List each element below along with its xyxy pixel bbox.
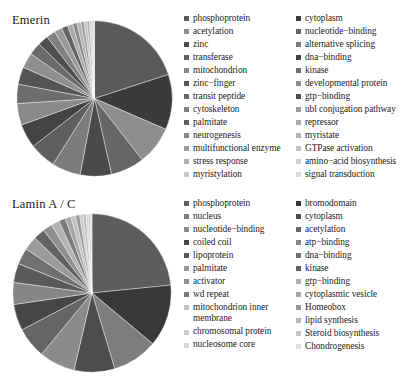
emerin-legend-item: acetylation (184, 26, 296, 38)
legend-swatch-icon (184, 172, 189, 177)
legend-swatch-icon (296, 331, 301, 336)
legend-label: amino−acid biosynthesis (305, 156, 396, 168)
legend-label: gtp−binding (305, 91, 350, 103)
legend-label: kinase (305, 263, 328, 275)
legend-label: myristylation (193, 169, 242, 181)
legend-label: nucleosome core (193, 339, 255, 351)
lamin-panel: Lamin A / C phosphoproteinbromodomainnuc… (0, 187, 414, 377)
legend-label: nucleus (193, 211, 221, 223)
lamin-legend-item: atp−binding (296, 237, 414, 249)
lamin-legend-item: bromodomain (296, 198, 414, 210)
legend-swatch-icon (296, 146, 301, 151)
legend-swatch-icon (296, 318, 301, 323)
legend-swatch-icon (296, 240, 301, 245)
legend-label: alternative splicing (305, 39, 375, 51)
legend-label: bromodomain (305, 198, 357, 210)
legend-label: palmitate (193, 263, 227, 275)
legend-swatch-icon (296, 214, 301, 219)
legend-swatch-icon (296, 227, 301, 232)
legend-swatch-icon (296, 107, 301, 112)
lamin-slice: phosphoprotein (92, 214, 171, 293)
lamin-legend-item: coiled coil (184, 237, 296, 249)
lamin-legend-item: lipid synthesis (296, 315, 414, 327)
lamin-legend-item: phosphoprotein (184, 198, 296, 210)
emerin-legend-column-left: phosphoproteinacetylationzinctransferase… (184, 13, 296, 182)
legend-label: dna−binding (305, 52, 352, 64)
emerin-legend-item: signal transduction (296, 169, 414, 181)
legend-swatch-icon (184, 42, 189, 47)
legend-label: multifunctional enzyme (193, 143, 280, 155)
legend-swatch-icon (296, 120, 301, 125)
lamin-title: Lamin A / C (12, 197, 76, 212)
legend-swatch-icon (184, 107, 189, 112)
legend-swatch-icon (296, 16, 301, 21)
lamin-legend-item: Chondrogenesis (296, 341, 414, 353)
emerin-legend-item: gtp−binding (296, 91, 414, 103)
legend-label: developmental protein (305, 78, 387, 90)
emerin-legend-item: stress response (184, 156, 296, 168)
emerin-legend-item: myristylation (184, 169, 296, 181)
lamin-legend-item: kinase (296, 263, 414, 275)
legend-swatch-icon (184, 305, 189, 310)
legend-label: zinc (193, 39, 208, 51)
legend-swatch-icon (296, 172, 301, 177)
legend-label: Steroid biosynthesis (305, 328, 379, 340)
emerin-legend-item: palmitate (184, 117, 296, 129)
legend-label: transferase (193, 52, 233, 64)
emerin-pie-svg: phosphoproteincytoplasmacetylationnucleo… (16, 20, 173, 177)
legend-swatch-icon (184, 16, 189, 21)
legend-swatch-icon (184, 133, 189, 138)
legend-label: cytoskeleton (193, 104, 239, 116)
legend-swatch-icon (296, 253, 301, 258)
legend-swatch-icon (184, 159, 189, 164)
legend-swatch-icon (184, 227, 189, 232)
legend-swatch-icon (296, 68, 301, 73)
lamin-legend-column-right: bromodomaincytoplasmacetylationatp−bindi… (296, 198, 414, 354)
legend-swatch-icon (296, 344, 301, 349)
lamin-pie-slices: phosphoproteinbromodomainnucleuscytoplas… (13, 214, 171, 372)
legend-swatch-icon (184, 94, 189, 99)
emerin-pie-slices: phosphoproteincytoplasmacetylationnucleo… (17, 21, 172, 176)
emerin-legend-item: developmental protein (296, 78, 414, 90)
emerin-legend-item: amino−acid biosynthesis (296, 156, 414, 168)
legend-swatch-icon (296, 279, 301, 284)
legend-swatch-icon (184, 214, 189, 219)
emerin-legend-item: cytoskeleton (184, 104, 296, 116)
emerin-legend-item: mitochondrion (184, 65, 296, 77)
lamin-legend-item: chromosomal protein (184, 326, 296, 338)
legend-swatch-icon (296, 266, 301, 271)
lamin-legend-item: nucleosome core (184, 339, 296, 351)
legend-swatch-icon (184, 81, 189, 86)
lamin-legend-item: wd repeat (184, 289, 296, 301)
emerin-legend-item: zinc−finger (184, 78, 296, 90)
legend-label: cytoplasm (305, 13, 343, 25)
legend-swatch-icon (296, 94, 301, 99)
legend-label: nucleotide−binding (305, 26, 376, 38)
emerin-legend-item: repressor (296, 117, 414, 129)
legend-swatch-icon (296, 159, 301, 164)
legend-swatch-icon (296, 81, 301, 86)
legend-label: acetylation (193, 26, 233, 38)
legend-label: GTPase activation (305, 143, 373, 155)
legend-swatch-icon (296, 133, 301, 138)
lamin-legend-item: cytoplasm (296, 211, 414, 223)
pie-chart-figure: Emerin phosphoproteincytoplasmacetylatio… (0, 0, 414, 377)
legend-swatch-icon (184, 343, 189, 348)
lamin-pie-svg: phosphoproteinbromodomainnucleuscytoplas… (12, 213, 172, 373)
legend-label: cytoplasm (305, 211, 343, 223)
legend-swatch-icon (296, 42, 301, 47)
legend-label: repressor (305, 117, 339, 129)
lamin-legend-item: gtp−binding (296, 276, 414, 288)
legend-label: gtp−binding (305, 276, 350, 288)
emerin-legend-column-right: cytoplasmnucleotide−bindingalternative s… (296, 13, 414, 182)
legend-label: mitochondrion (193, 65, 247, 77)
lamin-legend-item: activator (184, 276, 296, 288)
emerin-legend-item: phosphoprotein (184, 13, 296, 25)
legend-label: ubl conjugation pathway (305, 104, 396, 116)
lamin-legend-item: palmitate (184, 263, 296, 275)
emerin-legend-item: neurogenesis (184, 130, 296, 142)
legend-swatch-icon (184, 240, 189, 245)
lamin-pie: phosphoproteinbromodomainnucleuscytoplas… (12, 213, 172, 373)
legend-swatch-icon (184, 266, 189, 271)
legend-label: phosphoprotein (193, 198, 250, 210)
